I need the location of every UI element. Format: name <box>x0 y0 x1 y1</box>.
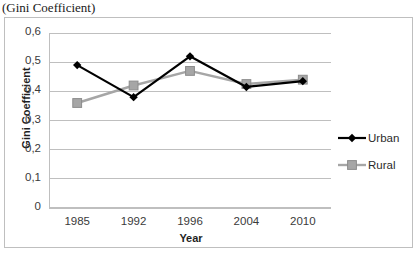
data-point-rural <box>186 67 195 76</box>
plot-area <box>5 18 414 249</box>
data-series-layer <box>73 52 307 107</box>
data-point-rural <box>129 81 138 90</box>
figure-caption: (Gini Coefficient) <box>2 0 95 16</box>
chart-container: Gini Coefficient Year 00,10,20,30,40,50,… <box>4 17 413 248</box>
data-point-rural <box>73 99 82 108</box>
